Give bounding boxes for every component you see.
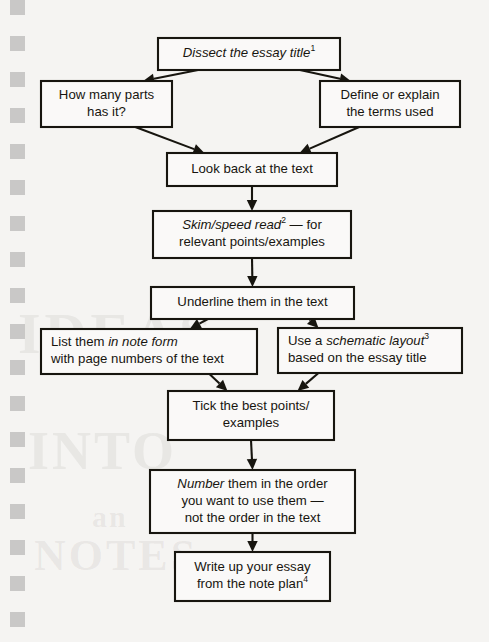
flowchart-node: Underline them in the text: [151, 287, 354, 319]
flowchart-node-label: List them in note form: [51, 334, 178, 349]
flowchart-node-label: Dissect the essay title1: [183, 43, 316, 60]
flowchart-node-label: Skim/speed read2 — for: [182, 215, 322, 232]
flowchart: Dissect the essay title1How many partsha…: [0, 0, 489, 642]
flowchart-node-label: with page numbers of the text: [50, 351, 224, 366]
connector-arrowhead: [247, 541, 257, 552]
flowchart-node: Look back at the text: [167, 153, 337, 186]
connector-line: [306, 373, 319, 384]
flowchart-node-label: the terms used: [346, 104, 433, 119]
flowchart-node-label: Use a schematic layout3: [288, 331, 429, 348]
connector-arrowhead: [247, 276, 257, 287]
flowchart-node-label: examples: [223, 415, 280, 430]
flowchart-node-label: from the note plan4: [197, 574, 308, 591]
connector-line: [310, 127, 360, 149]
flowchart-node-label: Define or explain: [341, 87, 440, 102]
connector-line: [300, 70, 340, 79]
connector-line: [154, 70, 198, 79]
connector-line: [135, 127, 194, 149]
flowchart-node-label: not the order in the text: [185, 510, 321, 525]
flowchart-node: Use a schematic layout3based on the essa…: [278, 328, 462, 373]
flowchart-node: Write up your essayfrom the note plan4: [175, 552, 330, 601]
flowchart-node-label: Number them in the order: [177, 476, 328, 491]
flowchart-node-label: you want to use them —: [181, 493, 324, 508]
flowchart-node-label: Write up your essay: [194, 559, 311, 574]
flowchart-node-label: Tick the best points/: [193, 398, 310, 413]
flowchart-node-label: based on the essay title: [288, 350, 427, 365]
flowchart-node-label: has it?: [87, 104, 126, 119]
connector-line: [251, 440, 252, 459]
flowchart-node-label: Look back at the text: [191, 161, 313, 176]
flowchart-node: Number them in the orderyou want to use …: [150, 470, 355, 533]
connector-arrowhead: [247, 200, 257, 211]
flowchart-nodes: Dissect the essay title1How many partsha…: [41, 38, 462, 601]
connector-arrowhead: [247, 459, 257, 470]
flowchart-node-label: Underline them in the text: [177, 294, 328, 309]
flowchart-node-label: How many parts: [59, 87, 155, 102]
flowchart-node: Define or explainthe terms used: [320, 81, 460, 127]
scanned-page: IDEAS INTO an NOTES Dissect the essay ti…: [0, 0, 489, 642]
flowchart-node: List them in note formwith page numbers …: [41, 329, 257, 374]
flowchart-node: Skim/speed read2 — forrelevant points/ex…: [153, 211, 351, 258]
flowchart-node: Dissect the essay title1: [158, 38, 340, 70]
flowchart-node: How many partshas it?: [41, 81, 172, 127]
flowchart-node-label: relevant points/examples: [179, 234, 325, 249]
connector-line: [209, 374, 219, 383]
flowchart-node: Tick the best points/examples: [168, 391, 334, 440]
